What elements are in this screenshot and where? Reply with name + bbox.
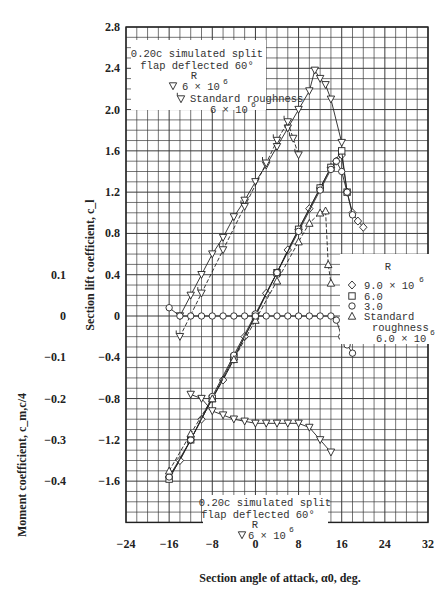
series-line: [169, 211, 331, 471]
legend-text: 0.20c simulated split: [131, 48, 263, 60]
y-tick-label-lift: 1.2: [105, 185, 120, 199]
x-tick-label: 0: [252, 537, 258, 551]
x-tick-label: −16: [160, 537, 179, 551]
y-tick-label-lift: 0: [114, 309, 120, 323]
y-tick-label-lift: 2.0: [105, 103, 120, 117]
y-tick-label-moment: 0.1: [51, 268, 66, 282]
y-tick-label-lift: 2.8: [105, 20, 120, 34]
y-tick-label-lift: −0.4: [98, 350, 120, 364]
y-tick-label-lift: −1.6: [98, 474, 120, 488]
x-tick-label: 24: [379, 537, 391, 551]
legend-text: 6 × 10: [210, 104, 248, 116]
y-tick-label-moment: −0.1: [44, 350, 66, 364]
series-line: [180, 122, 299, 337]
series-line: [191, 394, 331, 452]
y-tick-label-moment: −0.3: [44, 433, 66, 447]
x-tick-label: −24: [117, 537, 136, 551]
lift-moment-chart: 0.20c simulated splitflap deflected 60°R…: [0, 0, 448, 593]
x-tick-label: −8: [206, 537, 219, 551]
y-tick-label-moment: −0.4: [44, 474, 66, 488]
y-tick-label-lift: −1.2: [98, 433, 120, 447]
x-tick-label: 8: [296, 537, 302, 551]
y-tick-label-lift: 2.4: [105, 61, 120, 75]
legend-text: 6: [289, 525, 294, 534]
y-axis-label-lift: Section lift coefficient, c_l: [83, 199, 97, 331]
y-axis-label-moment: Moment coefficient, c_m,c/4: [15, 393, 29, 537]
y-tick-label-lift: −0.8: [98, 392, 120, 406]
y-tick-label-moment: 0: [60, 309, 66, 323]
legend-text: 6: [419, 275, 424, 284]
y-tick-label-lift: 0.4: [105, 268, 120, 282]
legend-text: 6: [223, 77, 228, 86]
legend-text: R: [385, 261, 392, 273]
legend-text: 6: [430, 328, 435, 337]
legend-text: 6: [251, 100, 256, 109]
legend-text: 6 × 10: [182, 81, 220, 93]
y-tick-label-lift: 1.6: [105, 144, 120, 158]
x-axis-label: Section angle of attack, α0, deg.: [199, 571, 360, 585]
x-tick-label: 16: [336, 537, 348, 551]
y-tick-label-lift: 0.8: [105, 226, 120, 240]
x-tick-label: 32: [422, 537, 434, 551]
series-line: [169, 308, 352, 353]
y-tick-label-moment: −0.2: [44, 392, 66, 406]
legend-text: 6.0 × 10: [376, 333, 426, 345]
legend-text: 0.20c simulated split: [199, 497, 331, 509]
